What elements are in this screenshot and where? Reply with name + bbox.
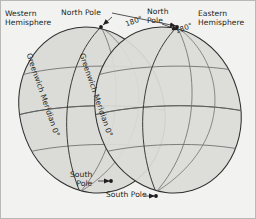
hemispheres-figure: WesternHemisphere North Pole NorthPole E… (0, 0, 256, 219)
globes-illustration (0, 0, 256, 219)
north-pole-marker-left (99, 25, 103, 29)
